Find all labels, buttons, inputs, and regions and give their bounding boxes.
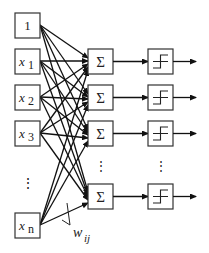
- input-node-bias: 1: [15, 13, 40, 38]
- summation-node-3: Σ: [88, 121, 113, 146]
- sigma-icon: Σ: [96, 90, 105, 106]
- sigma-icon: Σ: [96, 126, 105, 142]
- input-node-x2: x 2: [15, 85, 40, 110]
- activation-node-1: [148, 49, 173, 74]
- activation-node-3: [148, 121, 173, 146]
- input-node-xn: x n: [15, 213, 40, 238]
- input-subscript: 1: [28, 58, 34, 72]
- summation-node-1: Σ: [88, 49, 113, 74]
- input-subscript: n: [28, 222, 34, 236]
- weight-subscript: ij: [84, 232, 90, 244]
- sigma-icon: Σ: [96, 54, 105, 70]
- summation-nodes: Σ Σ Σ ⋮ Σ: [88, 49, 113, 209]
- activation-ellipsis: ⋮: [155, 159, 167, 173]
- activation-nodes: ⋮: [148, 49, 173, 209]
- activation-node-2: [148, 85, 173, 110]
- summation-node-n: Σ: [88, 184, 113, 209]
- perceptron-diagram: 1 x 1 x 2 x 3 ⋮ x n Σ Σ: [0, 0, 209, 253]
- input-nodes: 1 x 1 x 2 x 3 ⋮ x n: [15, 13, 40, 238]
- input-subscript: 3: [28, 130, 34, 144]
- input-ellipsis: ⋮: [21, 176, 35, 191]
- weight-label: w: [73, 225, 83, 240]
- input-label: x: [18, 218, 25, 233]
- input-label: 1: [24, 18, 31, 33]
- input-label: x: [18, 54, 25, 69]
- activation-node-n: [148, 184, 173, 209]
- output-arrows: [173, 62, 196, 197]
- input-label: x: [18, 90, 25, 105]
- sigma-icon: Σ: [96, 189, 105, 205]
- summation-node-2: Σ: [88, 85, 113, 110]
- summation-ellipsis: ⋮: [95, 159, 107, 173]
- input-node-x3: x 3: [15, 121, 40, 146]
- input-node-x1: x 1: [15, 49, 40, 74]
- input-subscript: 2: [28, 94, 34, 108]
- input-label: x: [18, 126, 25, 141]
- sum-to-activation-arrows: [113, 62, 148, 197]
- weight-connections: [40, 25, 88, 225]
